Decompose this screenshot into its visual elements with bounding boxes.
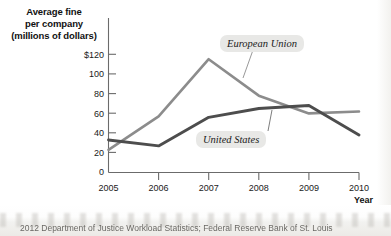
y-axis-tick-labels: $120 100 80 60 40 20 0 [84,50,104,178]
x-tick-label-2009: 2009 [299,183,319,193]
chart-figure: Average fine per company (millions of do… [0,0,391,236]
y-tick-label-0: 0 [99,167,104,177]
y-tick-label-60: 60 [94,109,104,119]
y-tick-label-20: 20 [94,148,104,158]
y-tick-label-40: 40 [94,128,104,138]
page-footer-strip: 2012 Department of Justice Workload Stat… [0,205,391,236]
y-tick-label-80: 80 [94,89,104,99]
series-annotation-united-states: United States [196,131,266,148]
line-chart-plot: $120 100 80 60 40 20 0 2005 2006 2007 20… [0,0,391,236]
y-tick-label-100: 100 [89,69,104,79]
series-annotation-european-union: European Union [220,35,304,52]
x-tick-label-2008: 2008 [249,183,269,193]
x-axis-tick-labels: 2005 2006 2007 2008 2009 2010 [98,183,369,193]
y-tick-label-120: $120 [84,50,104,60]
x-axis-ticks [159,173,359,181]
x-tick-label-2005: 2005 [98,183,118,193]
x-tick-label-2010: 2010 [349,183,369,193]
x-tick-label-2006: 2006 [149,183,169,193]
footer-source-caption: 2012 Department of Justice Workload Stat… [20,223,391,233]
leader-line-united-states [268,110,272,131]
y-axis-ticks [109,54,117,152]
page-edge-shading [377,0,391,205]
x-axis-title: Year [354,195,373,205]
leader-line-european-union [243,50,253,78]
x-tick-label-2007: 2007 [199,183,219,193]
